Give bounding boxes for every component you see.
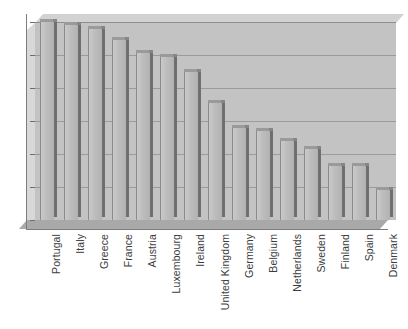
y-axis-tick-mark	[30, 121, 35, 122]
x-axis-tick-label: United Kingdom	[219, 234, 231, 310]
y-axis-tick-mark	[30, 88, 35, 89]
bar-front-face	[304, 149, 318, 220]
bar	[280, 138, 293, 220]
x-axis-tick-label: Germany	[243, 234, 255, 278]
bar	[208, 100, 221, 220]
x-axis-tick-label: Belgium	[267, 234, 279, 273]
bar	[328, 163, 341, 220]
bar	[112, 37, 125, 220]
plot-area: 0102030405060 PortugalItalyGreeceFranceA…	[0, 0, 408, 329]
bar	[232, 125, 245, 220]
bar	[304, 146, 317, 220]
x-axis-tick-label: Greece	[98, 234, 110, 269]
bar-front-face	[352, 166, 366, 220]
x-axis-tick-label: France	[122, 234, 134, 267]
bar	[352, 163, 365, 220]
bar	[136, 50, 149, 220]
gridline	[35, 22, 396, 23]
y-axis-tick-mark	[30, 220, 35, 221]
x-axis-tick-label: Finland	[339, 234, 351, 269]
x-axis-tick-label: Denmark	[387, 234, 399, 277]
x-axis-tick-label: Sweden	[315, 234, 327, 273]
bar-front-face	[376, 190, 390, 220]
bar	[376, 187, 389, 220]
x-axis-line	[26, 229, 388, 230]
x-axis-tick-label: Spain	[363, 234, 375, 261]
bar	[64, 22, 77, 220]
bar-front-face	[208, 103, 222, 220]
y-axis-tick-mark	[30, 154, 35, 155]
y-axis-tick-mark	[30, 22, 35, 23]
bar-front-face	[112, 40, 126, 220]
x-axis-tick-label: Portugal	[50, 234, 62, 274]
bar	[88, 26, 101, 220]
bar	[160, 54, 173, 220]
y-axis-tick-mark	[30, 187, 35, 188]
bar-front-face	[232, 128, 246, 220]
x-axis-tick-label: Italy	[74, 234, 86, 254]
x-axis-tick-label: Austria	[146, 234, 158, 267]
bar	[40, 19, 53, 220]
bar-front-face	[184, 72, 198, 221]
x-axis-tick-label: Ireland	[194, 234, 206, 267]
bar-front-face	[160, 57, 174, 220]
bar-front-face	[280, 141, 294, 220]
bar-front-face	[136, 53, 150, 220]
chart-figure: 0102030405060 PortugalItalyGreeceFranceA…	[0, 0, 408, 329]
y-axis-tick-mark	[30, 55, 35, 56]
plot-floor-face	[19, 220, 388, 229]
bar-front-face	[256, 131, 270, 220]
bar-front-face	[40, 22, 54, 220]
bar	[256, 128, 269, 220]
x-axis-tick-label: Luxembourg	[170, 234, 182, 293]
bar-front-face	[64, 25, 78, 220]
bar	[184, 69, 197, 221]
x-axis-tick-label: Netherlands	[291, 234, 303, 292]
y-axis-line	[26, 14, 27, 229]
bar-front-face	[328, 166, 342, 220]
bar-front-face	[88, 29, 102, 220]
